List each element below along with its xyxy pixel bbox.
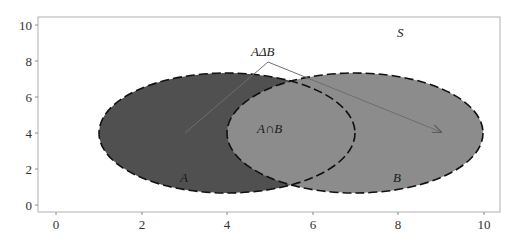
label-intersection: A∩B bbox=[256, 121, 282, 136]
x-tick-label: 10 bbox=[478, 217, 491, 232]
label-set-a: A bbox=[179, 170, 188, 185]
x-tick-label: 6 bbox=[310, 217, 317, 232]
y-tick-label: 4 bbox=[26, 126, 33, 141]
label-sym-diff: AΔB bbox=[250, 44, 275, 59]
y-axis: 0 2 4 6 8 10 bbox=[19, 18, 38, 213]
y-tick-label: 0 bbox=[26, 198, 33, 213]
x-tick-label: 2 bbox=[139, 217, 146, 232]
x-tick-label: 4 bbox=[224, 217, 231, 232]
y-tick-label: 8 bbox=[26, 54, 33, 69]
label-universe-s: S bbox=[397, 25, 404, 40]
y-tick-label: 6 bbox=[26, 90, 33, 105]
x-axis: 0 2 4 6 8 10 bbox=[53, 212, 491, 232]
x-tick-label: 0 bbox=[53, 217, 60, 232]
y-tick-label: 2 bbox=[26, 162, 33, 177]
x-tick-label: 8 bbox=[395, 217, 402, 232]
label-set-b: B bbox=[393, 170, 401, 185]
venn-diagram: S AΔB A∩B A B 0 2 4 6 8 10 0 2 4 6 8 10 bbox=[0, 0, 525, 242]
y-tick-label: 10 bbox=[19, 18, 32, 33]
